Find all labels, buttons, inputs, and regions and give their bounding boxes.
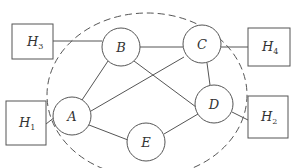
edge-c-d [207, 63, 210, 85]
node-a: A [53, 97, 91, 135]
node-b: B [102, 28, 140, 66]
node-e-label: E [140, 135, 151, 150]
node-d-label: D [208, 97, 220, 112]
node-c: C [183, 25, 221, 63]
host-h2: H2 [248, 96, 288, 138]
node-e: E [127, 123, 165, 161]
host-h3: H3 [12, 24, 53, 59]
node-b-label: B [115, 40, 126, 55]
node-a-label: A [66, 109, 76, 124]
node-d: D [195, 85, 233, 123]
host-h1: H1 [6, 101, 46, 145]
edge-h2-d [232, 112, 248, 120]
edge-d-e [164, 114, 198, 134]
edge-a-e [89, 125, 128, 140]
host-h4: H4 [248, 28, 290, 66]
edge-a-b [82, 61, 108, 100]
network-diagram: H3 H4 H1 H2 A B C D E [0, 0, 294, 168]
node-c-label: C [197, 37, 207, 52]
